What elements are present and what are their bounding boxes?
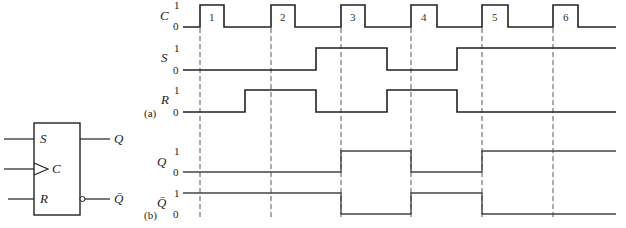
clock-triangle-icon bbox=[34, 163, 48, 175]
qbar-low-label: 0 bbox=[173, 208, 179, 220]
r-low-label: 0 bbox=[173, 106, 179, 118]
sr-flipflop-symbol: S C R Q Q̄ bbox=[4, 123, 124, 215]
pulse-label-2: 2 bbox=[280, 11, 286, 23]
waveform-q: Q 1 0 bbox=[157, 145, 616, 178]
qbar-pin-label: Q̄ bbox=[114, 191, 124, 206]
qbar-wave-line bbox=[183, 193, 616, 214]
s-wave-line bbox=[183, 48, 616, 70]
c-high-label: 1 bbox=[174, 0, 180, 11]
pulse-label-6: 6 bbox=[563, 11, 569, 23]
q-signal-label: Q bbox=[157, 154, 167, 169]
c-pin-label: C bbox=[52, 161, 61, 176]
waveform-c: C 1 0 1 2 3 4 5 6 bbox=[160, 0, 616, 32]
r-high-label: 1 bbox=[174, 84, 180, 96]
s-signal-label: S bbox=[161, 50, 168, 65]
qbar-signal-label: Q̄ bbox=[157, 195, 167, 210]
q-wave-line bbox=[183, 151, 616, 172]
clock-edge-markers bbox=[200, 28, 553, 218]
c-signal-label: C bbox=[160, 8, 169, 23]
q-pin-label: Q bbox=[114, 131, 124, 146]
timing-diagram: S C R Q Q̄ C 1 0 1 2 3 4 5 6 S 1 0 R 1 bbox=[0, 0, 626, 228]
q-low-label: 0 bbox=[173, 166, 179, 178]
waveform-qbar: Q̄ 1 0 (b) bbox=[144, 187, 616, 222]
waveform-r: R 1 0 (a) bbox=[144, 84, 616, 120]
s-high-label: 1 bbox=[174, 42, 180, 54]
r-signal-label: R bbox=[160, 92, 169, 107]
c-wave-line bbox=[183, 5, 616, 27]
pulse-label-5: 5 bbox=[492, 11, 498, 23]
q-high-label: 1 bbox=[174, 145, 180, 157]
r-wave-line bbox=[183, 90, 616, 112]
pulse-label-4: 4 bbox=[421, 11, 427, 23]
qbar-high-label: 1 bbox=[174, 187, 180, 199]
r-pin-label: R bbox=[39, 191, 48, 206]
s-pin-label: S bbox=[40, 131, 47, 146]
s-low-label: 0 bbox=[173, 64, 179, 76]
part-b-label: (b) bbox=[144, 209, 157, 222]
pulse-label-1: 1 bbox=[209, 11, 215, 23]
waveform-s: S 1 0 bbox=[161, 42, 616, 76]
pulse-label-3: 3 bbox=[350, 11, 356, 23]
c-low-label: 0 bbox=[173, 20, 179, 32]
inversion-bubble-icon bbox=[80, 197, 85, 202]
part-a-label: (a) bbox=[144, 107, 157, 120]
